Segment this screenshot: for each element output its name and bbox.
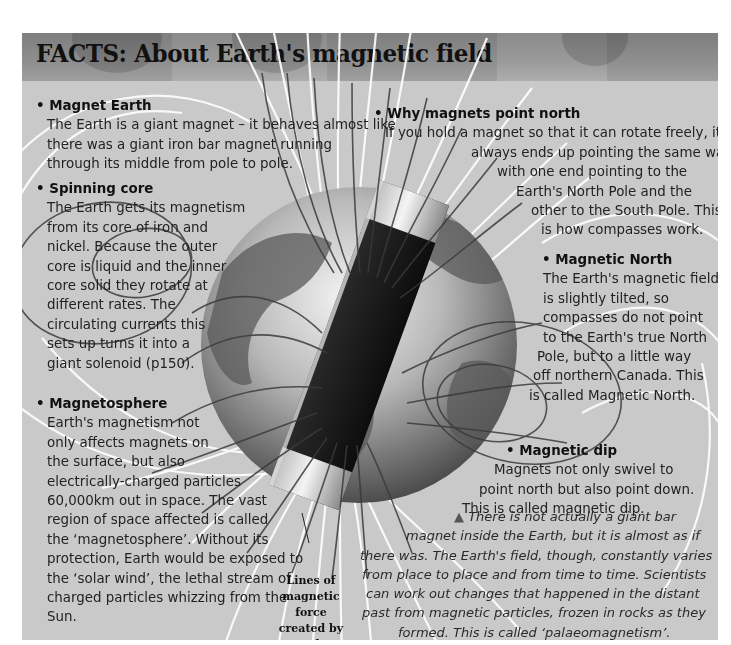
body-line: is how compasses work. bbox=[374, 220, 718, 239]
body-line: is called Magnetic North. bbox=[529, 386, 718, 405]
body-line: giant solenoid (p150). bbox=[36, 354, 245, 373]
body-line: through its middle from pole to pole. bbox=[36, 154, 396, 173]
body-line: the ‘solar wind’, the lethal stream of bbox=[36, 569, 303, 588]
label-line: magnetic force bbox=[266, 589, 356, 621]
body-line: The Earth gets its magnetism bbox=[36, 198, 245, 217]
body-line: charged particles whizzing from the bbox=[36, 588, 303, 607]
body-line: nickel. Because the outer bbox=[36, 237, 245, 256]
body-line: from its core of iron and bbox=[36, 218, 245, 237]
body-line: is slightly tilted, so bbox=[542, 289, 718, 308]
body-line: always ends up pointing the same way, bbox=[374, 143, 718, 162]
body-line: electrically-charged particles bbox=[36, 472, 303, 491]
body-line: region of space affected is called bbox=[36, 510, 303, 529]
label-line: created by bbox=[266, 621, 356, 637]
body-line: point north but also point down. bbox=[479, 480, 694, 499]
body-line: there was a giant iron bar magnet runnin… bbox=[36, 135, 396, 154]
label-line: Earth's bbox=[266, 637, 356, 640]
body-line: circulating currents this bbox=[36, 315, 245, 334]
body-line: If you hold a magnet so that it can rota… bbox=[374, 123, 718, 142]
body-line: sets up turns it into a bbox=[36, 334, 245, 353]
body-line: other to the South Pole. This bbox=[374, 201, 718, 220]
body-line: protection, Earth would be exposed to bbox=[36, 549, 303, 568]
section-heading: Magnetosphere bbox=[36, 394, 303, 413]
facts-panel: FACTS: About Earth's magnetic field bbox=[22, 33, 718, 640]
body-line: different rates. The bbox=[36, 295, 245, 314]
note-line: there was. The Earth's field, though, co… bbox=[360, 546, 712, 565]
body-line: Pole, but to a little way bbox=[537, 347, 718, 366]
section-spinning-core: Spinning core The Earth gets its magneti… bbox=[36, 179, 245, 373]
body-line: off northern Canada. This bbox=[533, 366, 718, 385]
illustration-label: Lines of magnetic force created by Earth… bbox=[266, 573, 356, 640]
body-line: only affects magnets on bbox=[36, 433, 303, 452]
body-line: 60,000km out in space. The vast bbox=[36, 491, 303, 510]
section-heading: Magnet Earth bbox=[36, 96, 396, 115]
body-line: with one end pointing to the bbox=[374, 162, 718, 181]
section-heading: Why magnets point north bbox=[374, 104, 718, 123]
body-line: the ‘magnetosphere’. Without its bbox=[36, 530, 303, 549]
body-line: The Earth's magnetic field bbox=[542, 269, 718, 288]
section-heading: Magnetic dip bbox=[506, 441, 694, 460]
section-magnet-earth: Magnet Earth The Earth is a giant magnet… bbox=[36, 96, 396, 174]
body-line: Sun. bbox=[36, 607, 303, 626]
section-magnetic-north: Magnetic North The Earth's magnetic fiel… bbox=[542, 250, 718, 405]
palaeomagnetism-note: ▲ There is not actually a giant bar magn… bbox=[360, 507, 712, 640]
body-line: The Earth is a giant magnet – it behaves… bbox=[36, 115, 396, 134]
body-line: compasses do not point bbox=[542, 308, 718, 327]
note-line: can work out changes that happened in th… bbox=[360, 584, 712, 603]
note-line: past from magnetic particles, frozen in … bbox=[360, 603, 712, 622]
note-line-first: ▲ There is not actually a giant bar bbox=[360, 507, 712, 526]
section-why-magnets-point-north: Why magnets point north If you hold a ma… bbox=[374, 104, 718, 240]
body-line: the surface, but also bbox=[36, 452, 303, 471]
note-line: magnet inside the Earth, but it is almos… bbox=[360, 526, 712, 545]
section-magnetosphere: Magnetosphere Earth's magnetism not only… bbox=[36, 394, 303, 627]
body-line: Magnets not only swivel to bbox=[494, 460, 694, 479]
triangle-marker-icon: ▲ bbox=[454, 509, 464, 524]
note-line: formed. This is called ‘palaeomagnetism’… bbox=[360, 623, 712, 640]
body-line: core solid they rotate at bbox=[36, 276, 245, 295]
body-line: to the Earth's true North bbox=[542, 328, 718, 347]
section-heading: Spinning core bbox=[36, 179, 245, 198]
body-line: Earth's North Pole and the bbox=[374, 182, 718, 201]
body-line: core is liquid and the inner bbox=[36, 257, 245, 276]
note-line: from place to place and from time to tim… bbox=[360, 565, 712, 584]
label-line: Lines of bbox=[266, 573, 356, 589]
section-heading: Magnetic North bbox=[542, 250, 718, 269]
body-line: Earth's magnetism not bbox=[36, 413, 303, 432]
note-text: There is not actually a giant bar bbox=[468, 509, 676, 524]
